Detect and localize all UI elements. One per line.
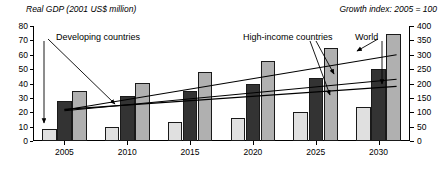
right-tick-label: 200 xyxy=(417,80,431,89)
left-tick xyxy=(30,40,34,41)
bar-2015-series-0 xyxy=(168,122,183,141)
right-tick xyxy=(410,40,414,41)
left-tick-label: 10 xyxy=(19,123,28,132)
left-tick-label: 50 xyxy=(19,65,28,74)
bar-2015-series-2 xyxy=(198,72,213,141)
x-tick xyxy=(127,141,128,145)
left-tick xyxy=(30,112,34,113)
right-tick xyxy=(410,26,414,27)
left-tick-label: 0 xyxy=(23,137,28,146)
left-tick xyxy=(30,55,34,56)
right-axis-title: Growth index: 2005 = 100 xyxy=(339,4,437,14)
left-tick xyxy=(30,127,34,128)
bar-2025-series-0 xyxy=(293,112,308,141)
left-tick-label: 20 xyxy=(19,108,28,117)
left-axis-title: Real GDP (2001 US$ million) xyxy=(26,4,136,14)
right-tick-label: 0 xyxy=(417,137,422,146)
bar-2030-series-0 xyxy=(356,107,371,142)
left-tick xyxy=(30,26,34,27)
annotation-world: World xyxy=(355,32,378,42)
bar-2020-series-1 xyxy=(246,84,261,141)
annotation-developing: Developing countries xyxy=(56,32,140,42)
right-tick-label: 150 xyxy=(417,94,431,103)
bar-2025-series-1 xyxy=(309,78,324,141)
left-tick-label: 70 xyxy=(19,36,28,45)
right-tick-label: 50 xyxy=(417,123,426,132)
x-axis xyxy=(33,140,410,141)
x-tick-label: 2030 xyxy=(356,147,402,157)
annotation-high-income: High-income countries xyxy=(243,32,333,42)
right-tick xyxy=(410,98,414,99)
left-tick-label: 30 xyxy=(19,94,28,103)
left-tick-label: 60 xyxy=(19,51,28,60)
x-tick xyxy=(253,141,254,145)
bar-2025-series-2 xyxy=(324,48,339,141)
right-tick-label: 350 xyxy=(417,36,431,45)
x-tick xyxy=(64,141,65,145)
x-tick xyxy=(316,141,317,145)
right-tick xyxy=(410,69,414,70)
right-tick xyxy=(410,55,414,56)
bar-2005-series-1 xyxy=(57,101,72,141)
bar-2030-series-1 xyxy=(371,69,386,141)
right-tick-label: 250 xyxy=(417,65,431,74)
right-tick-label: 400 xyxy=(417,22,431,31)
bar-2015-series-1 xyxy=(183,91,198,141)
bar-2005-series-0 xyxy=(42,129,57,141)
right-tick xyxy=(410,112,414,113)
bar-2005-series-2 xyxy=(72,91,87,141)
right-tick-label: 300 xyxy=(417,51,431,60)
left-axis xyxy=(33,26,34,141)
bar-2020-series-0 xyxy=(231,118,246,141)
right-tick-label: 100 xyxy=(417,108,431,117)
left-tick-label: 80 xyxy=(19,22,28,31)
x-tick-label: 2025 xyxy=(293,147,339,157)
chart-figure: Real GDP (2001 US$ million) Growth index… xyxy=(0,0,445,170)
bar-2010-series-1 xyxy=(120,96,135,141)
bar-2010-series-0 xyxy=(105,127,120,141)
left-tick xyxy=(30,69,34,70)
x-tick xyxy=(190,141,191,145)
right-tick xyxy=(410,84,414,85)
right-tick xyxy=(410,141,414,142)
x-tick-label: 2005 xyxy=(41,147,87,157)
x-tick-label: 2010 xyxy=(104,147,150,157)
left-tick xyxy=(30,84,34,85)
left-tick-label: 40 xyxy=(19,80,28,89)
left-tick xyxy=(30,98,34,99)
x-tick xyxy=(379,141,380,145)
bar-2010-series-2 xyxy=(135,83,150,141)
bar-2030-series-2 xyxy=(386,34,401,141)
left-tick xyxy=(30,141,34,142)
plot-area: 01020304050607080 0501001502002503003504… xyxy=(33,26,410,141)
x-tick-label: 2020 xyxy=(230,147,276,157)
bar-2020-series-2 xyxy=(261,61,276,142)
x-tick-label: 2015 xyxy=(167,147,213,157)
right-tick xyxy=(410,127,414,128)
